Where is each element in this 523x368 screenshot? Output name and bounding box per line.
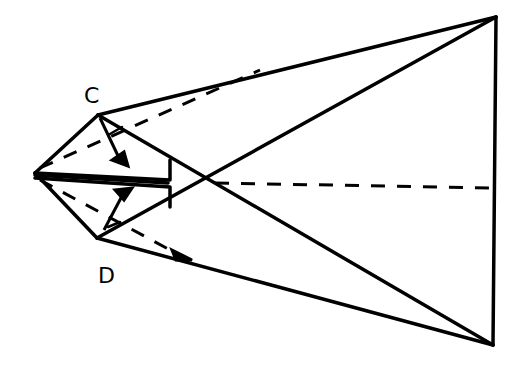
arrow-d-head bbox=[115, 188, 132, 200]
dashed-centerline bbox=[215, 183, 493, 188]
arrow-c-head bbox=[112, 152, 128, 166]
diagonal-d-top-right bbox=[97, 17, 496, 238]
edge-apex-c bbox=[35, 115, 98, 173]
edge-c-top-right bbox=[98, 17, 496, 115]
edge-d-bottom-right bbox=[97, 238, 493, 345]
diagonal-c-bottom-right bbox=[98, 115, 493, 345]
dashed-apex-bottom bbox=[40, 180, 185, 258]
fold-diagram: C D bbox=[0, 0, 523, 368]
label-d: D bbox=[98, 263, 115, 288]
arrow-d-dashed-head bbox=[172, 250, 192, 260]
label-c: C bbox=[84, 83, 99, 108]
edge-right-side bbox=[493, 17, 496, 345]
